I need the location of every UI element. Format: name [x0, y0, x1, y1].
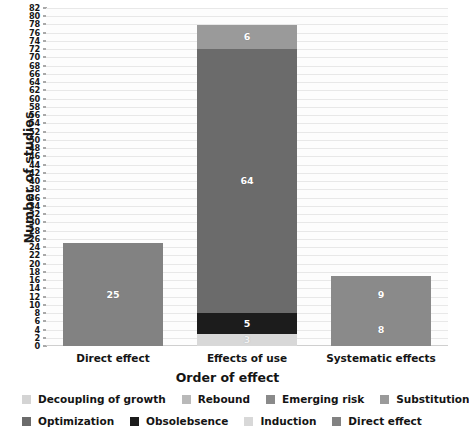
y-tick-label: 68: [29, 62, 40, 70]
bar-segment-value-label: 9: [378, 290, 385, 300]
bar-segment-value-label: 3: [244, 335, 251, 345]
bar-segment[interactable]: 3: [197, 334, 297, 346]
bar-group[interactable]: 35646: [197, 8, 297, 346]
bar-segment[interactable]: 25: [63, 243, 163, 346]
legend-swatch-icon: [380, 395, 389, 404]
legend-label: Obsolebsence: [146, 415, 228, 427]
y-tick-label: 60: [29, 95, 40, 103]
y-tick-label: 0: [35, 342, 41, 350]
chart-legend: Decoupling of growthReboundEmerging risk…: [22, 388, 440, 432]
x-axis-title: Order of effect: [0, 370, 455, 385]
bar-segment[interactable]: 8: [331, 313, 431, 346]
legend-label: Decoupling of growth: [38, 393, 166, 405]
legend-swatch-icon: [130, 417, 139, 426]
bar-group[interactable]: 89: [331, 8, 431, 346]
y-tick-label: 50: [29, 136, 40, 144]
legend-swatch-icon: [182, 395, 191, 404]
y-tick-label: 18: [29, 268, 40, 276]
legend-label: Induction: [260, 415, 316, 427]
y-tick-label: 38: [29, 185, 40, 193]
y-tick-label: 14: [29, 284, 40, 292]
bar-stack[interactable]: 35646: [197, 25, 297, 346]
legend-item[interactable]: Substitution: [380, 393, 469, 405]
bar-segment-value-label: 64: [240, 176, 253, 186]
y-tick-label: 80: [29, 12, 40, 20]
legend-item[interactable]: Optimization: [22, 415, 114, 427]
y-tick-label: 40: [29, 177, 40, 185]
legend-label: Substitution: [396, 393, 469, 405]
legend-swatch-icon: [332, 417, 341, 426]
bar-segment[interactable]: 5: [197, 313, 297, 334]
legend-swatch-icon: [22, 395, 31, 404]
x-axis-category-label: Systematic effects: [314, 352, 448, 364]
legend-item[interactable]: Obsolebsence: [130, 415, 228, 427]
legend-swatch-icon: [244, 417, 253, 426]
y-tick-label: 34: [29, 202, 40, 210]
bar-segment-value-label: 5: [244, 319, 251, 329]
y-tick-label: 44: [29, 161, 40, 169]
y-tick-label: 30: [29, 218, 40, 226]
y-tick-label: 46: [29, 152, 40, 160]
legend-label: Direct effect: [348, 415, 422, 427]
legend-swatch-icon: [22, 417, 31, 426]
y-tick-label: 20: [29, 260, 40, 268]
legend-item[interactable]: Direct effect: [332, 415, 422, 427]
legend-item[interactable]: Induction: [244, 415, 316, 427]
legend-swatch-icon: [266, 395, 275, 404]
bar-stack[interactable]: 89: [331, 276, 431, 346]
y-tick-label: 72: [29, 45, 40, 53]
x-axis-category-label: Direct effect: [46, 352, 180, 364]
legend-label: Optimization: [38, 415, 114, 427]
y-tick-label: 52: [29, 128, 40, 136]
y-tick-label: 74: [29, 37, 40, 45]
bar-segment-value-label: 25: [106, 290, 119, 300]
y-tick-label: 24: [29, 243, 40, 251]
legend-row: Decoupling of growthReboundEmerging risk…: [22, 388, 440, 410]
y-tick-label: 66: [29, 70, 40, 78]
legend-item[interactable]: Rebound: [182, 393, 250, 405]
legend-row: OptimizationObsolebsenceInductionDirect …: [22, 410, 440, 432]
x-axis-category-label: Effects of use: [180, 352, 314, 364]
y-tick-label: 62: [29, 86, 40, 94]
legend-label: Emerging risk: [282, 393, 364, 405]
bar-segment[interactable]: 6: [197, 25, 297, 50]
y-tick-label: 22: [29, 251, 40, 259]
legend-label: Rebound: [198, 393, 250, 405]
y-tick-label: 58: [29, 103, 40, 111]
y-tick-label: 54: [29, 119, 40, 127]
y-tick-label: 64: [29, 78, 40, 86]
y-tick-label: 26: [29, 235, 40, 243]
y-tick-label: 10: [29, 301, 40, 309]
y-tick-label: 28: [29, 227, 40, 235]
bar-segment[interactable]: 9: [331, 276, 431, 313]
y-tick-label: 56: [29, 111, 40, 119]
y-tick-label: 8: [35, 309, 41, 317]
plot-wrapper: 0246810121416182022242628303234363840424…: [46, 8, 448, 346]
y-tick-label: 4: [35, 326, 41, 334]
y-tick-label: 36: [29, 194, 40, 202]
y-tick-label: 48: [29, 144, 40, 152]
bar-stack[interactable]: 25: [63, 243, 163, 346]
y-tick-label: 2: [35, 334, 41, 342]
y-tick-label: 6: [35, 317, 41, 325]
legend-item[interactable]: Decoupling of growth: [22, 393, 166, 405]
legend-item[interactable]: Emerging risk: [266, 393, 364, 405]
y-tick-label: 82: [29, 4, 40, 12]
bar-segment-value-label: 6: [244, 32, 251, 42]
y-tick-label: 12: [29, 293, 40, 301]
y-axis-ticks: 0246810121416182022242628303234363840424…: [22, 8, 44, 346]
bar-group[interactable]: 25: [63, 8, 163, 346]
y-tick-label: 16: [29, 276, 40, 284]
bar-segment[interactable]: 64: [197, 49, 297, 313]
y-tick-label: 78: [29, 20, 40, 28]
y-tick-label: 42: [29, 169, 40, 177]
y-tick-label: 70: [29, 53, 40, 61]
bar-segment-value-label: 8: [378, 325, 385, 335]
y-tick-label: 76: [29, 29, 40, 37]
y-tick-label: 32: [29, 210, 40, 218]
